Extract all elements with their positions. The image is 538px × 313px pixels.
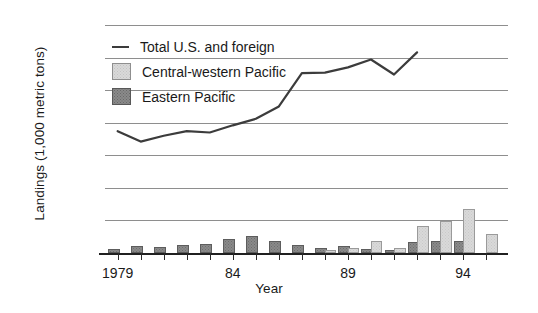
- x-tick: [141, 253, 142, 260]
- x-tick-label: 94: [433, 265, 493, 281]
- legend-label-total: Total U.S. and foreign: [140, 39, 275, 55]
- legend-swatch-eastern-icon: [112, 88, 131, 105]
- x-tick: [256, 253, 257, 260]
- legend-item-total: Total U.S. and foreign: [112, 34, 286, 59]
- legend-swatch-line-icon: [112, 39, 129, 54]
- x-tick: [417, 253, 418, 260]
- x-tick: [325, 253, 326, 260]
- x-tick: [279, 253, 280, 260]
- x-tick: [164, 253, 165, 260]
- chart-legend: Total U.S. and foreign Central-western P…: [112, 34, 286, 109]
- x-tick: [210, 253, 211, 260]
- x-tick: [463, 253, 464, 260]
- x-tick: [440, 253, 441, 260]
- legend-label-central-western-pacific: Central-western Pacific: [142, 64, 286, 80]
- x-tick: [394, 253, 395, 260]
- x-tick: [118, 253, 119, 260]
- x-tick: [233, 253, 234, 260]
- x-tick-label: 89: [318, 265, 378, 281]
- legend-item-central-western-pacific: Central-western Pacific: [112, 59, 286, 84]
- legend-label-eastern-pacific: Eastern Pacific: [142, 89, 235, 105]
- x-tick: [187, 253, 188, 260]
- y-axis-title: Landings (1,000 metric tons): [32, 19, 47, 249]
- x-tick: [348, 253, 349, 260]
- x-tick-label: 1979: [88, 265, 148, 281]
- x-tick-label: 84: [203, 265, 263, 281]
- x-tick: [371, 253, 372, 260]
- x-axis-line: [99, 253, 508, 255]
- x-tick: [486, 253, 487, 260]
- legend-swatch-central-western-icon: [112, 63, 131, 80]
- x-axis-title: Year: [0, 281, 538, 296]
- legend-item-eastern-pacific: Eastern Pacific: [112, 84, 286, 109]
- x-tick: [302, 253, 303, 260]
- chart-figure: Landings (1,000 metric tons) Year 051015…: [0, 0, 538, 313]
